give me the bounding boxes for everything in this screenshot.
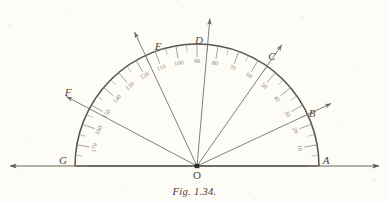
tick-minor bbox=[246, 55, 249, 61]
tick-major bbox=[82, 124, 94, 128]
tick-major bbox=[267, 73, 275, 83]
tick-minor bbox=[127, 66, 131, 72]
tick-major bbox=[119, 73, 127, 83]
tick-major bbox=[176, 46, 178, 59]
tick-minor bbox=[79, 134, 86, 136]
tick-minor bbox=[186, 44, 187, 51]
paper-speckle bbox=[120, 186, 122, 188]
degree-label: 20 bbox=[291, 126, 300, 134]
degree-label: 70 bbox=[229, 63, 237, 72]
center-point-marker bbox=[195, 164, 200, 168]
tick-major bbox=[304, 145, 317, 147]
tick-minor bbox=[312, 155, 319, 156]
ray-O-E bbox=[134, 32, 197, 166]
paper-speckle bbox=[182, 6, 184, 8]
point-label-A: A bbox=[322, 154, 330, 166]
tick-major bbox=[104, 88, 114, 96]
tick-minor bbox=[291, 96, 297, 100]
ray-O-C bbox=[197, 45, 282, 166]
tick-minor bbox=[227, 48, 229, 55]
tick-major bbox=[299, 124, 311, 128]
tick-major bbox=[234, 51, 238, 63]
degree-label: 10 bbox=[296, 144, 304, 151]
tick-minor bbox=[86, 114, 92, 117]
tick-minor bbox=[111, 80, 116, 85]
tick-major bbox=[252, 60, 259, 71]
paper-speckle bbox=[340, 120, 342, 122]
point-label-F: F bbox=[64, 86, 72, 98]
degree-label: 120 bbox=[139, 70, 151, 81]
degree-label: 170 bbox=[89, 143, 98, 153]
paper-speckle bbox=[8, 24, 11, 27]
paper-speckle bbox=[372, 178, 375, 181]
paper-speckle bbox=[356, 70, 358, 72]
figure-caption: Fig. 1.34. bbox=[0, 186, 389, 197]
paper-speckle bbox=[300, 16, 303, 19]
point-label-B: B bbox=[309, 107, 316, 119]
degree-label: 80 bbox=[212, 59, 219, 67]
center-label-O: O bbox=[193, 169, 201, 181]
ray-O-F bbox=[66, 97, 197, 166]
tick-major bbox=[291, 105, 302, 112]
tick-minor bbox=[165, 48, 167, 55]
degree-label: 140 bbox=[111, 93, 122, 105]
degree-label: 30 bbox=[283, 109, 292, 118]
degree-label: 130 bbox=[124, 80, 136, 91]
tick-minor bbox=[75, 155, 82, 156]
tick-major bbox=[280, 88, 290, 96]
paper-speckle bbox=[66, 8, 68, 10]
protractor-canvas: 1020304050607080901001101201301401501601… bbox=[0, 0, 389, 202]
tick-major bbox=[136, 60, 143, 71]
point-label-C: C bbox=[268, 50, 276, 62]
tick-major bbox=[77, 145, 90, 147]
degree-label: 60 bbox=[245, 70, 254, 79]
point-label-D: D bbox=[194, 34, 203, 46]
protractor-figure: 1020304050607080901001101201301401501601… bbox=[0, 0, 389, 202]
tick-major bbox=[155, 51, 159, 63]
tick-minor bbox=[278, 80, 283, 85]
degree-label: 110 bbox=[156, 62, 167, 72]
paper-speckle bbox=[30, 140, 32, 142]
degree-label: 160 bbox=[93, 125, 103, 136]
tick-minor bbox=[308, 134, 315, 136]
tick-minor bbox=[97, 96, 103, 100]
degree-label: 100 bbox=[174, 58, 184, 67]
tick-major bbox=[216, 46, 218, 59]
point-label-E: E bbox=[154, 40, 162, 52]
point-label-G: G bbox=[59, 154, 67, 166]
degree-label: 90 bbox=[194, 57, 200, 64]
paper-speckle bbox=[248, 192, 250, 194]
